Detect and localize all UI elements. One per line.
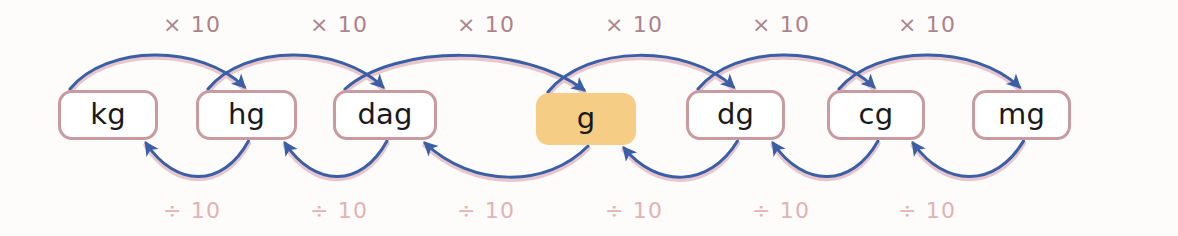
unit-box-dg[interactable]: dg bbox=[686, 90, 785, 140]
unit-box-label: cg bbox=[859, 100, 894, 129]
unit-box-mg[interactable]: mg bbox=[972, 90, 1071, 140]
divide-label-6: ÷ 10 bbox=[898, 200, 956, 222]
multiply-label-5: × 10 bbox=[752, 14, 810, 36]
unit-conversion-diagram: kghgdaggdgcgmg × 10× 10× 10× 10× 10× 10 … bbox=[0, 0, 1178, 236]
multiply-label-2: × 10 bbox=[310, 14, 368, 36]
unit-box-label: g bbox=[577, 104, 596, 133]
unit-box-label: mg bbox=[998, 100, 1045, 129]
unit-box-label: hg bbox=[228, 100, 265, 129]
arc-backward-group bbox=[146, 141, 1024, 177]
divide-label-4: ÷ 10 bbox=[605, 200, 663, 222]
arrow-divide-hg-to-kg bbox=[146, 141, 249, 177]
arrow-divide-dag-to-hg bbox=[285, 141, 387, 177]
unit-box-kg[interactable]: kg bbox=[58, 90, 158, 140]
unit-box-label: kg bbox=[90, 100, 126, 129]
multiply-label-6: × 10 bbox=[898, 14, 956, 36]
arc-fringe bbox=[839, 57, 1020, 91]
multiply-label-4: × 10 bbox=[605, 14, 663, 36]
arrow-divide-g-to-dag bbox=[425, 143, 588, 177]
arc-fringe bbox=[208, 57, 383, 91]
unit-box-label: dag bbox=[357, 100, 412, 129]
arrow-divide-dg-to-g bbox=[624, 141, 738, 177]
arc-fringe bbox=[70, 57, 245, 91]
unit-box-dag[interactable]: dag bbox=[333, 90, 437, 140]
multiply-label-3: × 10 bbox=[457, 14, 515, 36]
unit-box-cg[interactable]: cg bbox=[827, 90, 925, 140]
arrow-divide-cg-to-dg bbox=[773, 141, 878, 177]
unit-box-hg[interactable]: hg bbox=[196, 90, 297, 140]
unit-box-g[interactable]: g bbox=[536, 93, 636, 145]
arc-fringe bbox=[698, 57, 874, 91]
arrow-divide-mg-to-cg bbox=[913, 141, 1024, 177]
divide-label-5: ÷ 10 bbox=[752, 200, 810, 222]
unit-box-label: dg bbox=[717, 100, 754, 129]
multiply-label-1: × 10 bbox=[163, 14, 221, 36]
divide-label-1: ÷ 10 bbox=[163, 200, 221, 222]
divide-label-3: ÷ 10 bbox=[457, 200, 515, 222]
divide-label-2: ÷ 10 bbox=[310, 200, 368, 222]
